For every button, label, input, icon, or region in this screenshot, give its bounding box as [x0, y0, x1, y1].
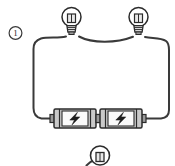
light-bulb-icon-right[interactable] [129, 8, 148, 35]
wire-right-branch [123, 37, 170, 119]
wire-left-branch [34, 37, 67, 119]
battery-bolt-icon-right[interactable] [96, 109, 146, 128]
light-bulb-icon-left[interactable] [62, 8, 81, 35]
item-number-label: 1 [13, 28, 18, 38]
battery-bolt-icon-left[interactable] [50, 109, 100, 128]
circuit-canvas: 1 [0, 0, 175, 166]
circuit-diagram-figure: 1 [0, 0, 175, 166]
wire-top-span [79, 37, 133, 42]
item-number-marker: 1 [9, 27, 22, 40]
light-bulb-icon-bottom-cropped[interactable] [91, 146, 110, 165]
